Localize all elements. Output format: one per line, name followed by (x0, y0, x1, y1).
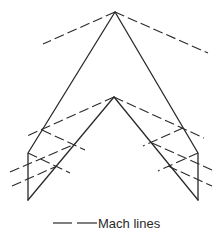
right-leading-edge (115, 12, 198, 200)
mach-line-right-4 (168, 166, 212, 186)
mach-lines (10, 12, 212, 186)
left-leading-edge (28, 12, 115, 200)
legend-label: Mach lines (98, 216, 161, 231)
mach-line-left-3 (10, 144, 75, 172)
mach-line-inner-apex-left (27, 97, 114, 136)
mach-line-apex-left (43, 12, 115, 44)
legend: Mach lines (53, 216, 161, 231)
right-trailing-edge (114, 97, 198, 200)
mach-line-left-2 (28, 153, 70, 173)
mach-line-apex-right (115, 12, 208, 53)
wing-planform-diagram: Mach lines (0, 0, 220, 234)
left-trailing-edge (28, 97, 114, 200)
mach-line-right-1 (143, 128, 183, 146)
mach-line-right-3 (152, 143, 212, 170)
wing-outline (28, 12, 198, 200)
mach-line-inner-apex-right (114, 97, 204, 138)
mach-line-left-4 (12, 166, 57, 186)
mach-line-right-2 (158, 153, 198, 171)
